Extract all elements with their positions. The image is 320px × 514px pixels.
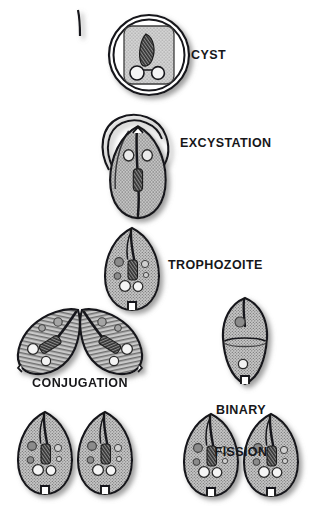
label-binary-fission-line1: BINARY	[215, 403, 268, 417]
label-trophozoite: TROPHOZOITE	[168, 258, 263, 272]
cyst-vacuole-left	[130, 66, 144, 80]
label-cyst: CYST	[191, 48, 226, 62]
label-conjugation: CONJUGATION	[32, 376, 128, 390]
label-binary-fission: BINARY FISSION	[215, 375, 268, 473]
stage-cyst	[109, 15, 189, 95]
label-binary-fission-line2: FISSION	[215, 445, 268, 459]
label-excystation: EXCYSTATION	[180, 136, 271, 150]
cyst-vacuole-right	[152, 67, 165, 80]
